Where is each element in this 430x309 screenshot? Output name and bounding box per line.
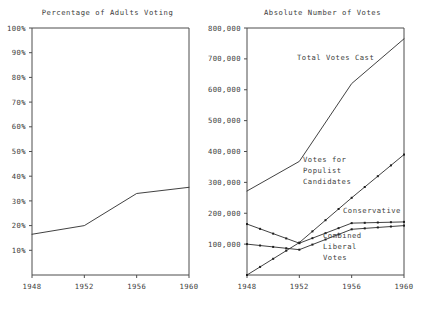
series-marker [403,154,405,156]
annotation-combined-liberal-votes: Votes [323,253,347,262]
series-marker [390,226,392,228]
y-tick-label: 80% [12,73,26,82]
series-marker [259,245,261,247]
x-axis-tick-labels-right: 1948195219561960 [238,282,414,291]
axis-frame-path [32,28,189,275]
y-tick-label: 70% [12,98,26,107]
data-series-left [32,187,189,234]
y-tick-label: 600,000 [208,85,241,94]
series-marker [246,243,248,245]
y-tick-label: 200,000 [208,209,241,218]
series-marker [311,244,313,246]
x-tick-label: 1956 [127,282,146,291]
series-marker [390,164,392,166]
y-tick-label: 500,000 [208,116,241,125]
annotation-combined-liberal-votes: Combined [323,231,362,240]
x-tick-label: 1960 [395,282,414,291]
annotation-votes-for-populist-candidates: Candidates [303,177,351,186]
y-tick-label: 10% [12,246,26,255]
x-tick-label: 1948 [238,282,257,291]
annotation-votes-for-populist-candidates: Votes for [303,155,347,164]
chart-panel-absolute: Absolute Number of Votes 100,000200,0003… [215,0,430,309]
y-tick-label: 90% [12,48,26,57]
series-marker [272,258,274,260]
series-marker [285,247,287,249]
annotation-conservative: Conservative [343,206,401,215]
annotation-votes-for-populist-candidates: Populist [303,166,342,175]
y-tick-label: 300,000 [208,178,241,187]
series-marker [351,222,353,224]
series-marker [298,242,300,244]
series-marker [285,237,287,239]
series-marker [364,227,366,229]
plot-area-right: 100,000200,000300,000400,000500,000600,0… [215,0,430,309]
series-marker [298,249,300,251]
y-tick-label: 700,000 [208,54,241,63]
y-tick-label: 800,000 [208,24,241,33]
x-tick-label: 1956 [342,282,361,291]
annotation-combined-liberal-votes: Liberal [323,242,357,251]
y-tick-label: 20% [12,221,26,230]
y-tick-label: 50% [12,147,26,156]
y-tick-label: 100% [7,24,26,33]
plot-area-left: 10%20%30%40%50%60%70%80%90%100% 19481952… [0,0,215,309]
series-marker [377,222,379,224]
series-marker [246,274,248,276]
series-marker [285,250,287,252]
series-marker [246,223,248,225]
series-marker [351,228,353,230]
series-marker [364,222,366,224]
x-tick-label: 1948 [23,282,42,291]
axis-frame-left [32,28,189,275]
series-marker [377,175,379,177]
series-marker [377,226,379,228]
y-tick-label: 100,000 [208,240,241,249]
x-axis-tick-labels-left: 1948195219561960 [23,282,199,291]
x-tick-label: 1960 [180,282,199,291]
series-marker [311,230,313,232]
series-marker [351,197,353,199]
y-tick-label: 40% [12,172,26,181]
series-line [32,187,189,234]
series-marker [272,233,274,235]
series-marker [311,237,313,239]
x-tick-label: 1952 [290,282,309,291]
series-marker [259,228,261,230]
series-marker [325,219,327,221]
series-marker [403,221,405,223]
series-marker [403,225,405,227]
annotation-total-votes-cast: Total Votes Cast [297,53,374,62]
figure-canvas: Percentage of Adults Voting 10%20%30%40%… [0,0,430,309]
y-axis-tick-labels-left: 10%20%30%40%50%60%70%80%90%100% [7,24,26,255]
x-tick-label: 1952 [75,282,94,291]
series-marker [272,246,274,248]
series-marker [338,208,340,210]
series-marker [390,221,392,223]
y-tick-label: 400,000 [208,147,241,156]
series-marker [338,227,340,229]
chart-panel-percentage: Percentage of Adults Voting 10%20%30%40%… [0,0,215,309]
y-tick-label: 30% [12,197,26,206]
series-marker [364,186,366,188]
series-marker [259,266,261,268]
y-tick-label: 60% [12,122,26,131]
